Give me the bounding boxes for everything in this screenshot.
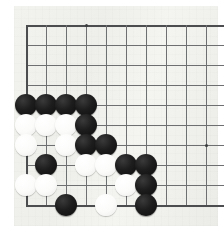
white-stone[interactable] xyxy=(115,174,137,196)
black-stone[interactable] xyxy=(15,94,37,116)
white-stone[interactable] xyxy=(55,134,77,156)
white-stone[interactable] xyxy=(35,174,57,196)
go-board-figure xyxy=(0,0,224,232)
white-stone[interactable] xyxy=(75,154,97,176)
black-stone[interactable] xyxy=(55,94,77,116)
white-stone[interactable] xyxy=(35,114,57,136)
black-stone[interactable] xyxy=(75,114,97,136)
black-stone[interactable] xyxy=(75,134,97,156)
black-stone[interactable] xyxy=(75,94,97,116)
black-stone[interactable] xyxy=(135,174,157,196)
stone-layer[interactable] xyxy=(0,0,224,232)
white-stone[interactable] xyxy=(55,114,77,136)
white-stone[interactable] xyxy=(95,194,117,216)
black-stone[interactable] xyxy=(35,94,57,116)
black-stone[interactable] xyxy=(135,194,157,216)
white-stone[interactable] xyxy=(95,154,117,176)
white-stone[interactable] xyxy=(15,174,37,196)
black-stone[interactable] xyxy=(55,194,77,216)
white-stone[interactable] xyxy=(15,114,37,136)
black-stone[interactable] xyxy=(135,154,157,176)
black-stone[interactable] xyxy=(95,134,117,156)
white-stone[interactable] xyxy=(15,134,37,156)
black-stone[interactable] xyxy=(35,154,57,176)
black-stone[interactable] xyxy=(115,154,137,176)
